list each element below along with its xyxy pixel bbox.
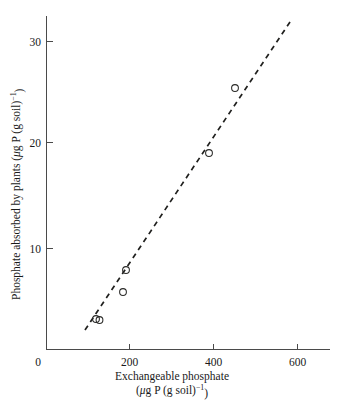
figure-container: 30 20 10 0 200 400 600 Exchangeable phos… bbox=[0, 0, 343, 401]
x-axis-ticks bbox=[130, 344, 298, 350]
y-unit-body: g P (g soil) bbox=[10, 101, 23, 152]
data-point bbox=[120, 289, 127, 296]
y-tick-label-20: 20 bbox=[30, 137, 42, 149]
y-unit-close-paren: ) bbox=[13, 88, 26, 92]
x-tick-label-0: 0 bbox=[35, 356, 41, 368]
x-tick-label-200: 200 bbox=[121, 356, 139, 368]
y-tick-label-10: 10 bbox=[30, 243, 42, 255]
x-tick-label-600: 600 bbox=[289, 356, 307, 368]
data-point bbox=[123, 267, 130, 274]
phosphate-scatter-chart: 30 20 10 0 200 400 600 Exchangeable phos… bbox=[0, 0, 343, 401]
data-point bbox=[206, 150, 213, 157]
x-axis-title-line2: (μg P (g soil)−1) bbox=[136, 383, 208, 401]
x-unit-close-paren: ) bbox=[204, 387, 208, 400]
x-unit-exponent: −1 bbox=[196, 383, 204, 392]
data-point bbox=[232, 85, 239, 92]
trend-line bbox=[85, 19, 292, 330]
y-unit-exponent: −1 bbox=[9, 92, 18, 100]
x-axis-title-line1: Exchangeable phosphate bbox=[115, 370, 229, 383]
y-axis-title: Phosphate absorbed by plants (μg P (g so… bbox=[9, 88, 27, 300]
axis-frame bbox=[47, 16, 331, 350]
data-points bbox=[93, 85, 239, 324]
x-tick-label-400: 400 bbox=[205, 356, 223, 368]
y-axis-ticks bbox=[47, 42, 53, 249]
y-tick-label-30: 30 bbox=[30, 36, 42, 48]
x-unit-body: g P (g soil) bbox=[146, 384, 197, 397]
y-title-body: Phosphate absorbed by plants ( bbox=[10, 157, 23, 300]
